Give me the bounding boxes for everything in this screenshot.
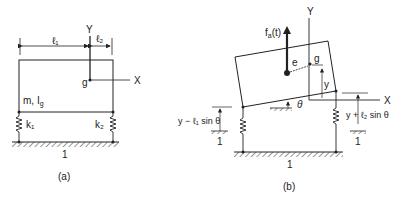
dim-l1-label: ℓ₁ [52,35,59,46]
axis-x-label: X [134,75,141,86]
ground-right-label: 1 [355,136,361,147]
axis-y-label: Y [86,24,93,35]
ground-left-label: 1 [217,136,223,147]
vehicle-model-diagram: ℓ₁ ℓ₂ Y g X m, Ig k₁ k₂ 1 (a) fa(t) [0,0,419,201]
figure-a: ℓ₁ ℓ₂ Y g X m, Ig k₁ k₂ 1 (a) [12,24,141,182]
figure-b: fa(t) e Y g X y y + ℓ₂ sin θ 1 y − ℓ₁ si… [178,6,391,192]
left-disp-label: y − ℓ₁ sin θ [178,116,220,126]
spring-k2-label: k₂ [95,119,104,130]
figure-a-caption: (a) [58,171,70,182]
disp-y-label: y [324,79,329,90]
spring-k2-icon [110,112,116,142]
ground-main-label: 1 [287,159,293,170]
axis-x-label-b: X [384,95,391,106]
ground-hatch [12,142,119,147]
force-label: fa(t) [265,27,281,39]
eccentricity-label: e [292,57,298,68]
axis-y-label-b: Y [307,6,314,17]
spring-left-icon [240,107,246,152]
cg-label-b: g [314,53,320,64]
spring-k1-icon [16,112,22,142]
cg-label: g [82,77,88,88]
mass-label: m, Ig [23,95,44,108]
dim-l2-label: ℓ₂ [96,33,103,44]
ground-label: 1 [62,149,68,160]
right-disp-label: y + ℓ₂ sin θ [346,110,389,120]
spring-k1-label: k₁ [26,119,35,130]
theta-label: θ [297,99,303,110]
figure-b-caption: (b) [283,181,295,192]
